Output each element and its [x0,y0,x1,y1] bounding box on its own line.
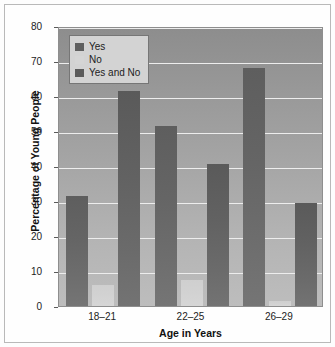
gridline [59,238,322,239]
chart-figure: Percentage of Young People 0102030405060… [0,0,335,347]
bar-yes-22–25 [155,126,177,306]
x-tick-label: 26–29 [244,311,314,322]
y-tick-label: 70 [2,56,42,67]
gridline [59,133,322,134]
y-tick-label: 30 [2,196,42,207]
gridline [59,28,322,29]
y-tick-label: 10 [2,266,42,277]
bar-yes-and-no-18–21 [118,91,140,306]
bar-no-18–21 [92,285,114,306]
y-tick-label: 20 [2,231,42,242]
gridline [59,203,322,204]
y-tick-label: 40 [2,161,42,172]
plot-area: Yes No Yes and No [58,27,323,307]
legend-item-label: Yes and No [89,66,140,79]
legend-item-no: No [75,53,140,66]
bar-yes-and-no-22–25 [207,164,229,306]
chart-legend: Yes No Yes and No [69,35,149,84]
legend-item-label: No [89,53,102,66]
bar-no-22–25 [181,280,203,306]
x-axis-label: Age in Years [58,327,323,339]
bar-yes-and-no-26–29 [295,203,317,306]
y-tick-label: 0 [2,301,42,312]
bar-no-26–29 [269,301,291,306]
gridline [59,98,322,99]
y-tick-label: 80 [2,21,42,32]
x-tick-label: 22–25 [156,311,226,322]
bar-yes-18–21 [66,196,88,306]
bar-yes-26–29 [243,68,265,306]
figure-frame: Percentage of Young People 0102030405060… [4,4,331,343]
y-tick-label: 60 [2,91,42,102]
legend-item-label: Yes [89,40,105,53]
y-tick-mark [54,307,58,308]
legend-item-yes: Yes [75,40,140,53]
gridline [59,273,322,274]
legend-item-yes-and-no: Yes and No [75,66,140,79]
gridline [59,168,322,169]
legend-swatch-icon [75,43,84,51]
legend-swatch-icon [75,56,84,64]
legend-swatch-icon [75,69,84,77]
x-tick-label: 18–21 [67,311,137,322]
y-tick-label: 50 [2,126,42,137]
